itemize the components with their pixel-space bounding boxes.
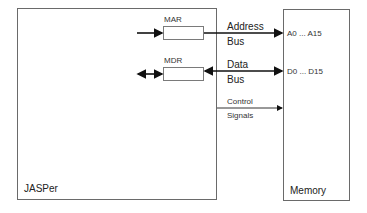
address-pins-label: A0 ... A15 (287, 30, 322, 38)
control-label-1: Control (227, 98, 253, 106)
data-bus-label-1: Data (227, 60, 248, 70)
data-bus-label-2: Bus (227, 75, 244, 85)
address-bus-label-1: Address (227, 22, 264, 32)
address-bus-label-2: Bus (227, 37, 244, 47)
data-pins-label: D0 ... D15 (287, 68, 323, 76)
control-label-2: Signals (227, 112, 253, 120)
